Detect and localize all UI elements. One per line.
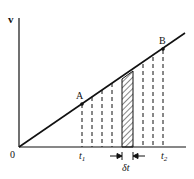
- t2-label: t2: [161, 150, 168, 163]
- velocity-line: [19, 33, 185, 147]
- velocity-time-diagram: v 0 A B t1 t2 δt: [0, 0, 194, 179]
- y-axis-label: v: [8, 13, 14, 25]
- point-b: [161, 47, 165, 51]
- t1-label: t1: [79, 150, 85, 163]
- interval-arrows: [110, 152, 145, 160]
- origin-label: 0: [10, 149, 15, 160]
- point-a-label: A: [76, 90, 84, 101]
- shaded-strip: [122, 71, 133, 147]
- point-a: [80, 102, 84, 106]
- point-b-label: B: [159, 35, 166, 46]
- delta-t-label: δt: [122, 162, 130, 173]
